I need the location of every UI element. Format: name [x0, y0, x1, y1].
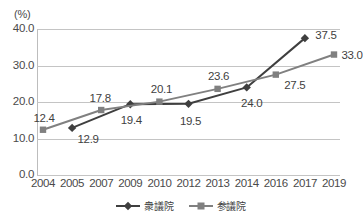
square-marker: [188, 201, 214, 211]
cropped-title-text: —— ———— —— —————— —— ——— ————: [46, 0, 236, 1]
diamond-marker: [184, 100, 192, 108]
square-marker: [98, 107, 104, 113]
data-point-label: 19.4: [121, 114, 142, 126]
square-marker: [40, 127, 46, 133]
data-point-label: 17.8: [90, 92, 111, 104]
x-axis-tick-label: 2004: [31, 177, 55, 189]
data-point-label: 37.5: [315, 29, 336, 41]
y-axis-tick-label: 40.0: [0, 22, 34, 34]
x-axis-tick-label: 2016: [264, 177, 288, 189]
y-axis-unit-label: (%): [14, 8, 31, 20]
data-point-label: 19.5: [180, 115, 201, 127]
diamond-marker: [115, 201, 141, 211]
x-axis-tick-label: 2019: [322, 177, 346, 189]
cropped-title-strip: —— ———— —— —————— —— ——— ————: [0, 0, 361, 7]
legend-label: 衆議院: [144, 198, 173, 213]
y-axis-tick-labels: 0.010.020.030.040.0: [0, 29, 34, 175]
series-layer: [37, 29, 340, 175]
data-point-label: 20.1: [151, 83, 172, 95]
square-marker: [273, 71, 279, 77]
x-axis-tick-label: 2009: [118, 177, 142, 189]
diamond-marker: [68, 124, 76, 132]
x-axis-tick-label: 2007: [89, 177, 113, 189]
y-axis-tick-label: 10.0: [0, 132, 34, 144]
legend-item[interactable]: 衆議院: [115, 198, 173, 213]
data-point-label: 23.6: [208, 70, 229, 82]
square-marker: [331, 51, 337, 57]
x-axis-tick-label: 2005: [60, 177, 84, 189]
x-axis-tick-label: 2017: [293, 177, 317, 189]
data-point-label: 33.0: [341, 49, 362, 61]
x-axis-tick-label: 2010: [147, 177, 171, 189]
data-point-label: 12.9: [78, 133, 99, 145]
square-marker: [214, 86, 220, 92]
x-axis-tick-label: 2014: [235, 177, 259, 189]
chart-legend: 衆議院参議院: [0, 196, 361, 215]
x-axis-tick-label: 2013: [206, 177, 230, 189]
data-point-label: 24.0: [241, 97, 262, 109]
x-axis-tick-label: 2012: [177, 177, 201, 189]
gridline: [37, 175, 340, 176]
x-axis-tick-labels: 2004200520072009201020122013201420162017…: [0, 177, 361, 191]
legend-label: 参議院: [217, 198, 246, 213]
legend-item[interactable]: 参議院: [188, 198, 246, 213]
y-axis-tick-label: 20.0: [0, 95, 34, 107]
data-point-label: 27.5: [284, 79, 305, 91]
data-point-label: 12.4: [33, 112, 54, 124]
y-axis-tick-label: 30.0: [0, 59, 34, 71]
square-marker: [156, 98, 162, 104]
